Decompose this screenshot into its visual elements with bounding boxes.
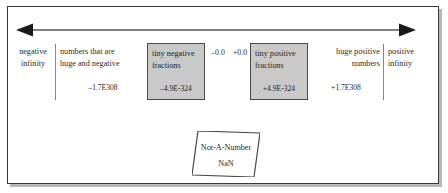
floating-point-range-diagram: negative infinity numbers that are huge … bbox=[0, 0, 448, 193]
region-huge-and-positive-line2: numbers bbox=[312, 58, 380, 70]
box-tiny-positive-fractions-value: +4.9E-324 bbox=[251, 83, 307, 95]
region-huge-and-positive: huge positive numbers +1.7E308 bbox=[312, 46, 380, 94]
box-tiny-negative-fractions-value: –4.9E-324 bbox=[148, 83, 204, 95]
divider-left bbox=[55, 44, 56, 100]
region-positive-infinity: positive infinity bbox=[388, 46, 436, 69]
region-positive-infinity-line2: infinity bbox=[388, 58, 436, 70]
box-tiny-positive-fractions-line1: tiny positive bbox=[255, 48, 303, 60]
not-a-number-abbreviation: NaN bbox=[192, 158, 260, 170]
label-positive-zero: +0.0 bbox=[228, 48, 252, 57]
not-a-number-title: Not-A-Number bbox=[192, 142, 260, 154]
region-positive-infinity-line1: positive bbox=[388, 46, 436, 58]
arrow-right-head-icon bbox=[399, 24, 416, 37]
box-tiny-positive-fractions: tiny positive fractions +4.9E-324 bbox=[250, 43, 308, 100]
box-tiny-negative-fractions-line2: fractions bbox=[152, 60, 200, 72]
label-negative-zero: –0.0 bbox=[206, 48, 230, 57]
region-negative-infinity-line1: negative bbox=[12, 46, 54, 58]
shape-not-a-number: Not-A-Number NaN bbox=[192, 131, 260, 177]
region-negative-infinity: negative infinity bbox=[12, 46, 54, 69]
region-huge-and-negative-line2: huge and negative bbox=[60, 58, 146, 70]
region-huge-and-negative: numbers that are huge and negative –1.7E… bbox=[60, 46, 146, 94]
divider-right bbox=[383, 44, 384, 100]
box-tiny-negative-fractions: tiny negative fractions –4.9E-324 bbox=[147, 43, 205, 100]
number-line-axis bbox=[14, 22, 418, 38]
parallelogram-outline bbox=[192, 131, 260, 177]
region-huge-and-positive-line1: huge positive bbox=[312, 46, 380, 58]
region-huge-and-negative-value: –1.7E308 bbox=[60, 82, 146, 94]
box-tiny-positive-fractions-line2: fractions bbox=[255, 60, 303, 72]
region-huge-and-positive-value: +1.7E308 bbox=[312, 82, 380, 94]
box-tiny-negative-fractions-line1: tiny negative bbox=[152, 48, 200, 60]
parallelogram-icon bbox=[192, 131, 260, 177]
region-huge-and-negative-line1: numbers that are bbox=[60, 46, 146, 58]
arrow-left-head-icon bbox=[16, 24, 33, 37]
region-negative-infinity-line2: infinity bbox=[12, 58, 54, 70]
